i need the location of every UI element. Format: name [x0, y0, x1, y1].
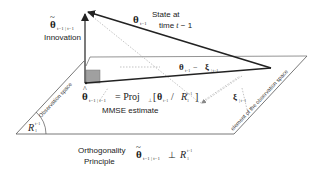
- svg-text:t−1 | t−1: t−1 | t−1: [143, 156, 160, 161]
- innovation-symbol: θ ~ t−1 | t−1: [50, 12, 74, 31]
- orthogonality-equation: θ ~ t−1 | t−1 ⊥ R t−1 1: [136, 142, 192, 161]
- state-label-line1: State at: [152, 10, 180, 19]
- svg-text:ξ: ξ: [233, 92, 237, 102]
- svg-text:t−1: t−1: [187, 148, 192, 153]
- theta-minus-xi-label: θ t−1 − ξ | t−1: [179, 62, 218, 73]
- svg-text:| t−1: | t−1: [239, 98, 246, 103]
- svg-text:| t−1: | t−1: [211, 68, 218, 73]
- svg-text:[: [: [153, 91, 156, 102]
- svg-text:θ: θ: [133, 13, 139, 25]
- svg-text:θ: θ: [179, 62, 184, 72]
- estimate-point: [85, 82, 88, 85]
- orthogonality-label-line1: Orthogonality: [78, 146, 126, 155]
- mmse-equation: θ ^ t−1 | t−1 = Proj ⊥ [ θ t−1 / R t−1 1…: [82, 85, 198, 103]
- svg-text:⊥: ⊥: [148, 98, 152, 103]
- svg-text:^: ^: [83, 85, 87, 94]
- observation-space-label: Observation space: [37, 81, 73, 119]
- svg-text:~: ~: [50, 12, 55, 22]
- svg-text:t−1: t−1: [35, 121, 40, 126]
- svg-text:t−1 | t−1: t−1 | t−1: [89, 98, 106, 103]
- orthogonality-label-line2: Principle: [84, 157, 115, 166]
- svg-text:]: ]: [195, 91, 198, 102]
- angle-label: R t−1 1: [27, 121, 40, 133]
- svg-text:θ: θ: [157, 91, 162, 102]
- svg-text:/: /: [171, 91, 174, 102]
- right-angle-square: [86, 70, 100, 83]
- svg-text:t−1: t−1: [185, 68, 190, 73]
- xi-label: ξ | t−1: [233, 92, 246, 103]
- state-symbol: θ t−1: [133, 13, 147, 26]
- svg-text:~: ~: [136, 142, 141, 152]
- svg-text:⊥: ⊥: [168, 150, 176, 160]
- svg-text:t−1: t−1: [140, 21, 147, 26]
- svg-text:R: R: [179, 149, 186, 160]
- svg-text:t−1 | t−1: t−1 | t−1: [57, 26, 74, 31]
- svg-text:= Proj: = Proj: [115, 91, 140, 102]
- svg-text:1: 1: [187, 98, 189, 103]
- svg-text:t−1: t−1: [163, 98, 168, 103]
- svg-text:1: 1: [35, 128, 37, 133]
- svg-text:−: −: [193, 63, 198, 72]
- svg-text:R: R: [27, 122, 34, 133]
- mmse-label: MMSE estimate: [102, 106, 159, 115]
- innovation-label: Innovation: [44, 33, 81, 42]
- state-label-line2: time t − 1: [159, 21, 193, 30]
- svg-text:ξ: ξ: [205, 62, 209, 72]
- orthogonality-diagram: θ ~ t−1 | t−1 Innovation θ t−1 State at …: [0, 0, 323, 169]
- svg-text:t−1: t−1: [187, 91, 192, 96]
- svg-text:1: 1: [187, 156, 189, 161]
